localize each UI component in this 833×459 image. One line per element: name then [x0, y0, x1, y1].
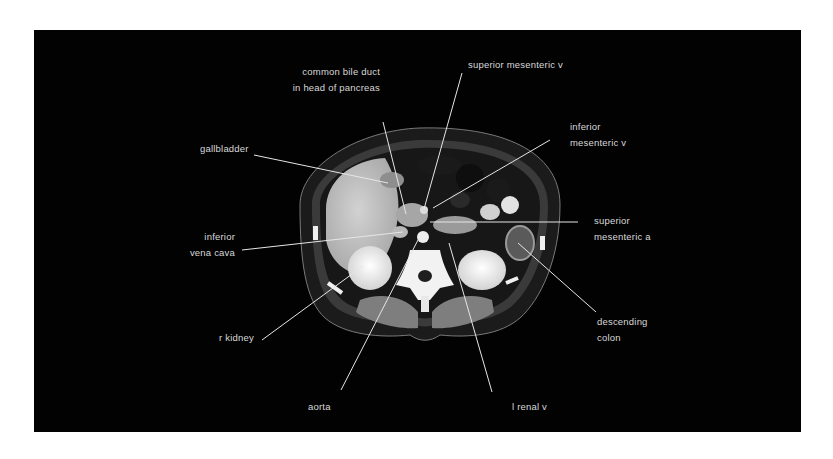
- right-kidney: [348, 246, 392, 290]
- label-descending-colon: descending colon: [597, 314, 648, 346]
- rib: [540, 236, 545, 250]
- left-kidney: [458, 250, 506, 290]
- label-common-bile-duct: common bile duct in head of pancreas: [275, 64, 380, 96]
- label-inferior-mesenteric-v: inferior mesenteric v: [570, 119, 626, 151]
- label-inferior-vena-cava: inferior vena cava: [180, 229, 235, 261]
- label-l-renal-v: l renal v: [512, 399, 547, 415]
- ct-scan-image: [0, 0, 833, 459]
- label-superior-mesenteric-a: superior mesenteric a: [594, 213, 651, 245]
- label-gallbladder: gallbladder: [200, 141, 249, 157]
- label-aorta: aorta: [308, 399, 331, 415]
- label-superior-mesenteric-v: superior mesenteric v: [468, 57, 563, 73]
- descending-colon-region: [506, 226, 534, 260]
- aorta-vessel: [417, 231, 429, 243]
- label-r-kidney: r kidney: [219, 330, 254, 346]
- rib: [313, 226, 318, 240]
